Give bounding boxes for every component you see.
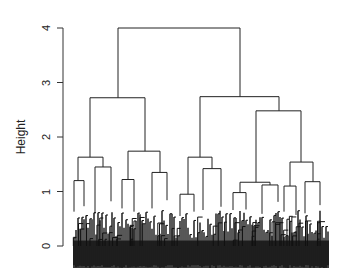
y-tick-label: 1 (40, 188, 52, 194)
y-axis-label: Height (14, 120, 28, 155)
y-tick-label: 0 (40, 243, 52, 249)
y-tick-label: 3 (40, 79, 52, 85)
y-tick-label: 2 (40, 134, 52, 140)
y-tick-label: 4 (40, 25, 52, 31)
y-axis (57, 28, 63, 246)
dendrogram-leaves (73, 211, 329, 268)
dendrogram-tree (74, 28, 320, 216)
